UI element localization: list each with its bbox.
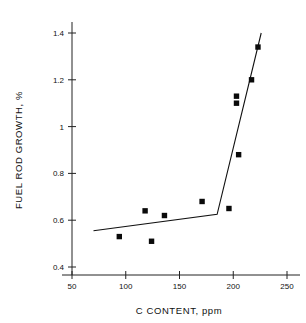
data-point: [234, 93, 239, 98]
y-tick-label: 1.4: [53, 29, 65, 38]
x-tick-label: 150: [173, 282, 187, 291]
x-axis-title: C CONTENT, ppm: [136, 305, 223, 316]
data-point: [226, 206, 231, 211]
data-point: [149, 239, 154, 244]
axes-group: 0.40.60.811.21.450100150200250: [53, 22, 300, 291]
x-tick-label: 200: [227, 282, 241, 291]
data-point: [199, 199, 204, 204]
data-points-group: [117, 44, 261, 244]
y-tick-label: 1.2: [53, 76, 65, 85]
data-point: [234, 101, 239, 106]
fit-line-group: [94, 33, 262, 231]
data-point: [249, 77, 254, 82]
x-tick-label: 250: [280, 282, 294, 291]
data-point: [117, 234, 122, 239]
y-tick-label: 0.8: [53, 169, 65, 178]
fuel-rod-growth-scatter-chart: 0.40.60.811.21.450100150200250 C CONTENT…: [0, 0, 306, 323]
data-point: [142, 208, 147, 213]
x-tick-label: 100: [119, 282, 133, 291]
data-point: [236, 152, 241, 157]
data-point: [162, 213, 167, 218]
y-tick-label: 1: [60, 123, 65, 132]
x-tick-label: 50: [68, 282, 77, 291]
y-tick-label: 0.6: [53, 216, 65, 225]
data-point: [255, 44, 260, 49]
chart-svg: 0.40.60.811.21.450100150200250 C CONTENT…: [0, 0, 306, 323]
fit-line: [94, 33, 262, 231]
y-tick-label: 0.4: [53, 263, 65, 272]
axis-titles-group: C CONTENT, ppm FUEL ROD GROWTH, %: [13, 91, 222, 316]
y-axis-title: FUEL ROD GROWTH, %: [13, 91, 24, 209]
